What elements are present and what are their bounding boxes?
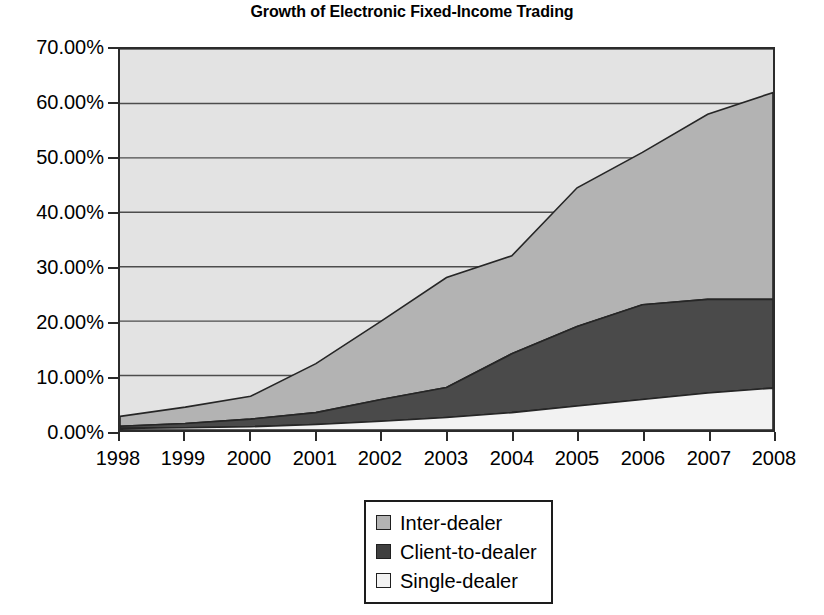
x-axis-tick-1999 [183, 432, 185, 441]
y-axis-tick-70 [108, 47, 118, 49]
x-axis-tick-2003 [446, 432, 448, 441]
chart-legend: Inter-dealer Client-to-dealer Single-dea… [364, 500, 553, 604]
legend-swatch-client-to-dealer [376, 544, 391, 559]
page-title: Growth of Electronic Fixed-Income Tradin… [0, 0, 824, 22]
y-axis-label-50: 50.00% [0, 147, 104, 167]
y-axis-tick-40 [108, 212, 118, 214]
y-axis-label-60: 60.00% [0, 92, 104, 112]
y-axis-tick-10 [108, 377, 118, 379]
x-axis-tick-2001 [315, 432, 317, 441]
y-axis-tick-20 [108, 322, 118, 324]
legend-label-single-dealer: Single-dealer [400, 570, 518, 592]
x-axis-label-2007: 2007 [677, 446, 741, 470]
x-axis-tick-2002 [380, 432, 382, 441]
x-axis-tick-2004 [512, 432, 514, 441]
x-axis-tick-2005 [577, 432, 579, 441]
x-axis-tick-1998 [118, 432, 120, 441]
y-axis-label-10: 10.00% [0, 367, 104, 387]
plot-clip [120, 49, 773, 430]
x-axis-tick-2007 [709, 432, 711, 441]
x-axis-tick-2000 [249, 432, 251, 441]
y-axis-tick-0 [108, 432, 118, 434]
stacked-area-plot [120, 49, 773, 430]
x-axis-label-2005: 2005 [545, 446, 609, 470]
x-axis-label-1998: 1998 [86, 446, 150, 470]
x-axis-label-2000: 2000 [217, 446, 281, 470]
legend-item-single-dealer: Single-dealer [376, 566, 537, 595]
legend-swatch-single-dealer [376, 573, 391, 588]
x-axis-tick-2008 [774, 432, 776, 441]
x-axis-label-2002: 2002 [348, 446, 412, 470]
y-axis-label-70: 70.00% [0, 37, 104, 57]
x-axis-label-2003: 2003 [414, 446, 478, 470]
x-axis-label-2008: 2008 [742, 446, 806, 470]
y-axis-tick-30 [108, 267, 118, 269]
y-axis-tick-50 [108, 157, 118, 159]
legend-item-inter-dealer: Inter-dealer [376, 508, 537, 537]
plot-area [118, 47, 775, 432]
y-axis-label-20: 20.00% [0, 312, 104, 332]
y-axis-label-30: 30.00% [0, 257, 104, 277]
legend-label-client-to-dealer: Client-to-dealer [400, 541, 537, 563]
x-axis-label-2004: 2004 [480, 446, 544, 470]
y-axis-tick-60 [108, 102, 118, 104]
x-axis-label-2006: 2006 [611, 446, 675, 470]
chart-canvas: Growth of Electronic Fixed-Income Tradin… [0, 0, 824, 615]
x-axis-label-2001: 2001 [283, 446, 347, 470]
legend-swatch-inter-dealer [376, 515, 391, 530]
legend-label-inter-dealer: Inter-dealer [400, 512, 502, 534]
x-axis-label-1999: 1999 [151, 446, 215, 470]
legend-item-client-to-dealer: Client-to-dealer [376, 537, 537, 566]
x-axis-tick-2006 [643, 432, 645, 441]
y-axis-label-0: 0.00% [0, 422, 104, 442]
y-axis-label-40: 40.00% [0, 202, 104, 222]
